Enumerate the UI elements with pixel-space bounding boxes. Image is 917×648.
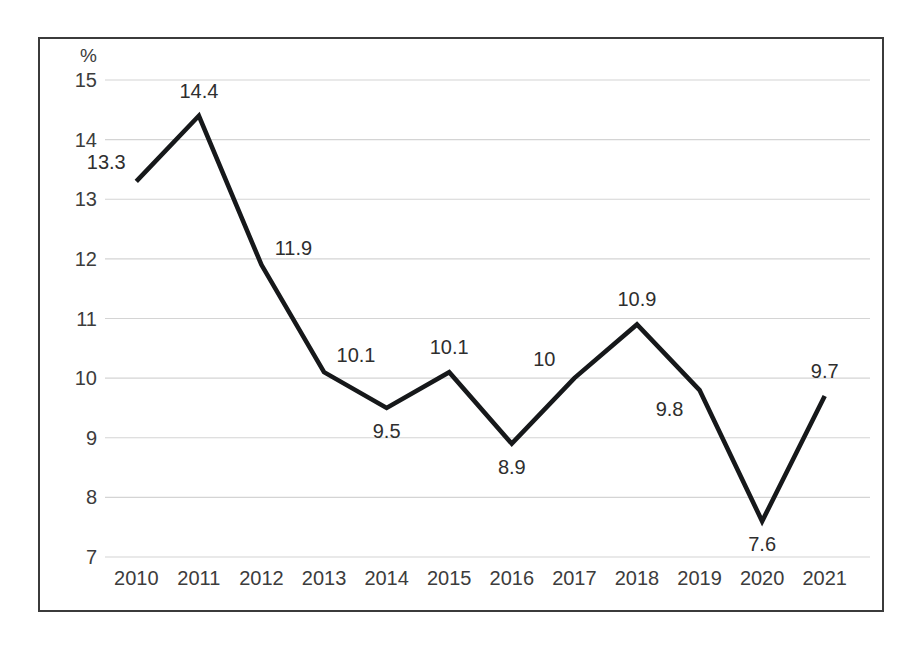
x-tick-label: 2020: [740, 567, 785, 589]
data-point-label: 9.7: [811, 360, 839, 382]
x-tick-label: 2011: [177, 567, 220, 589]
x-tick-label: 2018: [615, 567, 660, 589]
data-point-label: 10.9: [617, 288, 656, 310]
data-point-label: 13.3: [87, 151, 126, 173]
data-point-label: 14.4: [179, 80, 218, 102]
y-tick-label: 11: [76, 308, 97, 330]
chart-canvas: 151413121110987 201020112012201320142015…: [0, 0, 917, 648]
y-axis-unit-label: %: [80, 45, 97, 66]
data-point-label: 10: [533, 348, 555, 370]
y-tick-label: 15: [75, 69, 97, 91]
x-tick-label: 2010: [114, 567, 159, 589]
gridlines-group: [105, 80, 870, 557]
data-point-label: 9.5: [373, 420, 401, 442]
data-point-label: 10.1: [337, 344, 376, 366]
y-tick-label: 10: [75, 367, 97, 389]
data-point-label: 9.8: [656, 398, 684, 420]
x-tick-label: 2015: [427, 567, 472, 589]
x-tick-label: 2017: [552, 567, 597, 589]
x-tick-label: 2014: [364, 567, 409, 589]
data-point-labels: 13.314.411.910.19.510.18.91010.99.87.69.…: [87, 80, 839, 555]
data-point-label: 10.1: [430, 336, 469, 358]
data-point-label: 7.6: [748, 533, 776, 555]
y-tick-label: 14: [75, 129, 97, 151]
data-point-label: 11.9: [275, 237, 312, 259]
x-tick-label: 2012: [239, 567, 284, 589]
x-tick-label: 2013: [302, 567, 347, 589]
x-tick-label: 2019: [677, 567, 722, 589]
y-tick-label: 7: [86, 546, 97, 568]
data-point-label: 8.9: [498, 456, 526, 478]
y-tick-label: 12: [75, 248, 97, 270]
y-tick-label: 9: [86, 427, 97, 449]
y-tick-label: 13: [75, 188, 97, 210]
x-tick-label: 2016: [490, 567, 535, 589]
line-chart-figure: 151413121110987 201020112012201320142015…: [0, 0, 917, 648]
y-axis-tick-labels: 151413121110987: [75, 69, 97, 568]
x-axis-tick-labels: 2010201120122013201420152016201720182019…: [114, 567, 847, 589]
y-tick-label: 8: [86, 486, 97, 508]
x-tick-label: 2021: [802, 567, 847, 589]
